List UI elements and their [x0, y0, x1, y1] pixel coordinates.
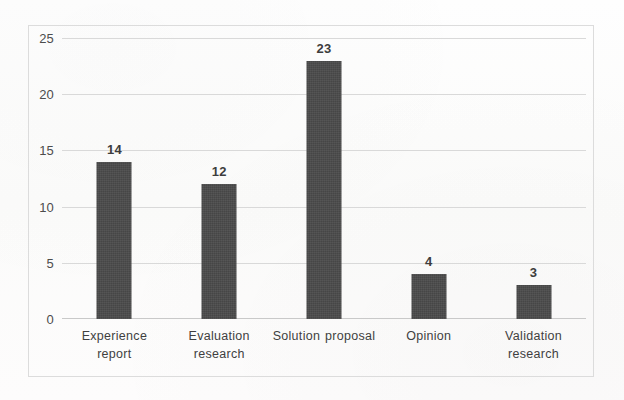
x-tick-label-validation-research: Validation research — [481, 327, 586, 363]
x-tick-label-opinion: Opinion — [376, 327, 481, 345]
bar-group-opinion: 4 — [376, 38, 481, 319]
bar-solution-proposal[interactable] — [306, 61, 341, 320]
bar-value-experience-report: 14 — [107, 143, 122, 156]
bar-value-evaluation-research: 12 — [212, 165, 227, 178]
x-tick-line-1: Opinion — [376, 327, 481, 345]
y-axis: 25 20 15 10 5 0 — [14, 38, 54, 319]
x-tick-line-1: Experience — [62, 327, 167, 345]
bar-group-validation-research: 3 — [481, 38, 586, 319]
bar-value-solution-proposal: 23 — [317, 42, 332, 55]
y-tick-label-0: 0 — [20, 313, 54, 326]
y-tick-label-25: 25 — [20, 32, 54, 45]
x-tick-line-2: report — [62, 345, 167, 363]
bar-validation-research[interactable] — [516, 285, 551, 319]
bar-value-validation-research: 3 — [530, 266, 537, 279]
bar-evaluation-research[interactable] — [202, 184, 237, 319]
x-tick-line-1: Solution proposal — [272, 327, 377, 345]
y-tick-label-20: 20 — [20, 88, 54, 101]
bar-group-solution-proposal: 23 — [272, 38, 377, 319]
bar-opinion[interactable] — [411, 274, 446, 319]
x-tick-line-1: Evaluation — [167, 327, 272, 345]
bar-value-opinion: 4 — [425, 255, 432, 268]
x-tick-line-2: research — [481, 345, 586, 363]
x-tick-label-solution-proposal: Solution proposal — [272, 327, 377, 345]
bar-chart-figure: 25 20 15 10 5 0 14 12 23 4 — [0, 0, 624, 400]
x-tick-label-experience-report: Experience report — [62, 327, 167, 363]
plot-area: 14 12 23 4 3 — [62, 38, 586, 319]
x-tick-line-1: Validation — [481, 327, 586, 345]
y-tick-label-15: 15 — [20, 144, 54, 157]
bar-group-evaluation-research: 12 — [167, 38, 272, 319]
bar-group-experience-report: 14 — [62, 38, 167, 319]
x-tick-line-2: research — [167, 345, 272, 363]
y-tick-label-5: 5 — [20, 256, 54, 269]
bar-experience-report[interactable] — [97, 162, 132, 319]
x-axis: Experience report Evaluation research So… — [62, 327, 586, 375]
y-tick-label-10: 10 — [20, 200, 54, 213]
x-tick-label-evaluation-research: Evaluation research — [167, 327, 272, 363]
